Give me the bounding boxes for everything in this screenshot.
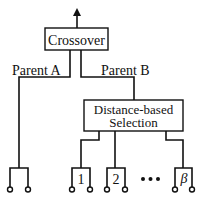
node-circle-icon <box>173 187 178 192</box>
crossover-block: Crossover <box>45 28 108 50</box>
crossover-diagram: Crossover Parent A Parent B Distance-bas… <box>0 0 204 201</box>
candidate-group-beta: β <box>166 131 195 192</box>
node-circle-icon <box>123 187 128 192</box>
candidate-group-2: 2 <box>105 131 128 192</box>
node-circle-icon <box>88 187 93 192</box>
output-arrow-icon <box>73 8 81 28</box>
candidate-label-1: 1 <box>78 172 85 187</box>
node-circle-icon <box>190 187 195 192</box>
parent-a-label: Parent A <box>12 63 61 78</box>
ellipsis-dots-icon <box>141 177 160 181</box>
parent-a-leaf-pair <box>8 168 31 192</box>
selection-label-line2: Selection <box>109 115 158 130</box>
candidate-label-2: 2 <box>113 172 120 187</box>
candidate-label-beta: β <box>180 171 188 186</box>
crossover-label: Crossover <box>48 33 105 48</box>
node-circle-icon <box>70 187 75 192</box>
distance-selection-block: Distance-based Selection <box>84 100 183 131</box>
parent-b-label: Parent B <box>101 63 150 78</box>
candidate-group-1: 1 <box>70 131 100 192</box>
node-circle-icon <box>105 187 110 192</box>
node-circle-icon <box>26 187 31 192</box>
node-circle-icon <box>8 187 13 192</box>
